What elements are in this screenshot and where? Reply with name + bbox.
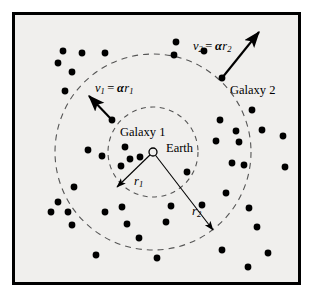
galaxy-dot xyxy=(122,144,129,151)
galaxy-dot xyxy=(60,48,67,55)
galaxy-dot xyxy=(249,107,256,114)
galaxy-dot xyxy=(265,250,272,257)
galaxy-2-label: Galaxy 2 xyxy=(230,83,275,97)
galaxy-dot xyxy=(71,184,78,191)
galaxy-dot xyxy=(213,138,220,145)
galaxy-dot xyxy=(241,162,248,169)
galaxy-dot xyxy=(127,156,134,163)
galaxy-dot xyxy=(199,202,206,209)
hubble-expansion-figure: Earth Galaxy 1 Galaxy 2 v1=αr1 v2=αr2 r1… xyxy=(0,0,313,297)
galaxy-dot xyxy=(69,69,76,76)
galaxy-dot xyxy=(124,221,131,228)
v2-equals: = xyxy=(205,39,212,53)
galaxy-dot xyxy=(223,190,230,197)
galaxy-dot xyxy=(136,235,143,242)
diagram-canvas: Earth Galaxy 1 Galaxy 2 v1=αr1 v2=αr2 r1… xyxy=(0,0,313,297)
galaxy-dot xyxy=(62,88,69,95)
galaxy-dot xyxy=(233,128,240,135)
galaxy-dot xyxy=(102,50,109,57)
galaxy-dot xyxy=(102,209,109,216)
galaxy-dot xyxy=(171,52,178,59)
earth-marker-icon xyxy=(149,148,157,156)
galaxy-dot xyxy=(168,203,175,210)
galaxy-dot xyxy=(93,252,100,259)
earth-label: Earth xyxy=(166,141,194,155)
galaxy-2-dot xyxy=(219,75,226,82)
v1-subscript: 1 xyxy=(101,86,105,96)
galaxy-dot xyxy=(85,147,92,154)
galaxy-dot xyxy=(154,255,161,262)
galaxy-dot xyxy=(245,264,252,271)
galaxy-dot xyxy=(118,163,125,170)
galaxy-dot xyxy=(246,205,253,212)
galaxy-dot xyxy=(55,60,62,67)
galaxy-dot xyxy=(69,222,76,229)
galaxy-dot xyxy=(55,199,62,206)
galaxy-dot xyxy=(280,133,287,140)
v1-equals: = xyxy=(107,81,114,95)
galaxy-1-dot xyxy=(109,117,116,124)
galaxy-dot xyxy=(219,247,226,254)
galaxy-dot xyxy=(217,117,224,124)
galaxy-dot xyxy=(137,154,144,161)
galaxy-dot xyxy=(119,204,126,211)
galaxy-dot xyxy=(236,139,243,146)
r1-subscript: 1 xyxy=(139,179,143,189)
galaxy-dot xyxy=(65,209,72,216)
galaxy-dot xyxy=(79,50,86,57)
galaxy-dot xyxy=(99,153,106,160)
galaxy-dot xyxy=(173,39,180,46)
galaxy-dot xyxy=(282,164,289,171)
galaxy-dot xyxy=(48,209,55,216)
galaxy-dot xyxy=(184,169,191,176)
galaxy-dot xyxy=(229,160,236,167)
galaxy-1-label: Galaxy 1 xyxy=(120,125,165,139)
v1-radius-subscript: 1 xyxy=(129,86,133,96)
galaxy-dot xyxy=(254,224,261,231)
galaxy-dot xyxy=(259,127,266,134)
galaxy-dot xyxy=(163,219,170,226)
